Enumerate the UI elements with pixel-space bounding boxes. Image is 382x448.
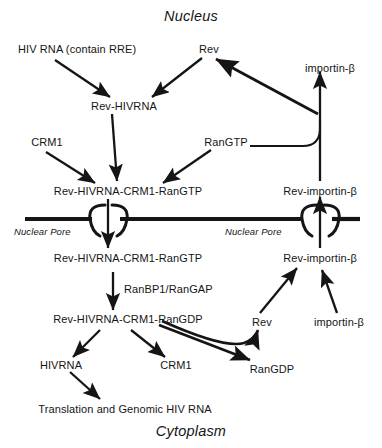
pore-label-left: Nuclear Pore: [14, 225, 71, 238]
node-rangtp: RanGTP: [204, 136, 247, 149]
pore-left-arc-upper: [90, 205, 105, 236]
arrow-rev-to-revimportin: [260, 268, 297, 313]
node-hivrna-cytoplasm: HIVRNA: [40, 359, 82, 372]
node-rev-importin-nucleus: Rev-importin-β: [283, 185, 357, 198]
node-rev-cytoplasm: Rev: [252, 316, 272, 329]
pore-left-arc-lower: [112, 205, 127, 236]
compartment-label-cytoplasm: Cytoplasm: [156, 425, 226, 438]
arrow-rev-to-revhivrna: [152, 58, 202, 97]
arrow-complexgdp-to-crm1: [131, 330, 165, 357]
node-crm1-cytoplasm: CRM1: [160, 359, 192, 372]
arrow-merge-to-rev: [216, 59, 318, 114]
pore-right-arc-upper: [302, 205, 317, 236]
arrow-crm1-to-complexgtp: [46, 152, 95, 183]
node-crm1-nucleus: CRM1: [31, 136, 63, 149]
node-rangdp-cytoplasm: RanGDP: [250, 363, 295, 376]
node-ranbp1-rangap: RanBP1/RanGAP: [124, 283, 213, 296]
arrow-importin-to-revimportin: [322, 270, 337, 313]
node-importin-beta-cytoplasm: importin-β: [314, 316, 364, 329]
arrow-hivrna-to-translation: [70, 372, 100, 399]
node-complex-gdp-cytoplasm: Rev-HIVRNA-CRM1-RanGDP: [53, 313, 203, 326]
curve-rangtp-to-importin-line: [250, 120, 320, 146]
node-importin-beta-top: importin-β: [305, 62, 355, 75]
node-rev-hivrna: Rev-HIVRNA: [91, 100, 157, 113]
node-complex-gtp-cytoplasm: Rev-HIVRNA-CRM1-RanGTP: [54, 252, 202, 265]
node-complex-gtp-nucleus: Rev-HIVRNA-CRM1-RanGTP: [54, 185, 202, 198]
node-rev-top: Rev: [199, 43, 219, 56]
pore-label-right: Nuclear Pore: [225, 225, 282, 238]
node-hiv-rna: HIV RNA (contain RRE): [18, 43, 136, 56]
node-rev-importin-cytoplasm: Rev-importin-β: [283, 252, 357, 265]
compartment-label-nucleus: Nucleus: [164, 10, 218, 23]
pathway-diagram: Nucleus HIV RNA (contain RRE) Rev import…: [0, 0, 382, 448]
arrow-revhivrna-to-complexgtp: [112, 114, 117, 181]
arrow-hivrna-to-revhivrna: [55, 60, 110, 97]
arrow-rangtp-to-complexgtp: [163, 150, 211, 183]
pore-right-arc-lower: [324, 205, 339, 236]
node-translation: Translation and Genomic HIV RNA: [38, 403, 211, 416]
arrow-complexgdp-to-hivrna: [73, 330, 100, 357]
arrow-complexgdp-to-rangdp: [159, 325, 250, 360]
